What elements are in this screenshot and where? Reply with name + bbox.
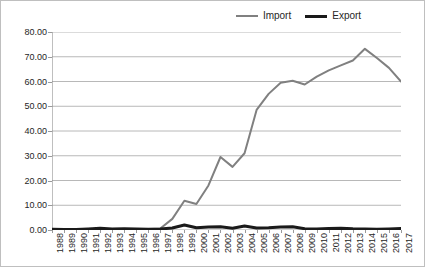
x-tick-label: 2010 <box>320 233 329 253</box>
x-tick-mark <box>317 230 318 233</box>
x-tick-label: 2005 <box>260 233 269 253</box>
x-tick-label: 2008 <box>296 233 305 253</box>
x-tick-label: 2003 <box>236 233 245 253</box>
x-tick-mark <box>389 230 390 233</box>
x-tick-mark <box>377 230 378 233</box>
x-tick-mark <box>245 230 246 233</box>
x-tick-mark <box>293 230 294 233</box>
y-axis: 0.0010.0020.0030.0040.0050.0060.0070.008… <box>1 1 47 267</box>
x-tick-mark <box>353 230 354 233</box>
x-tick-mark <box>196 230 197 233</box>
x-tick-label: 1998 <box>176 233 185 253</box>
x-tick-label: 1997 <box>164 233 173 253</box>
x-tick-mark <box>88 230 89 233</box>
chart-legend: Import Export <box>1 7 425 25</box>
x-tick-label: 1994 <box>128 233 137 253</box>
x-tick-label: 2015 <box>380 233 389 253</box>
x-tick-mark <box>184 230 185 233</box>
x-tick-mark <box>64 230 65 233</box>
x-tick-mark <box>257 230 258 233</box>
x-tick-mark <box>401 230 402 233</box>
x-tick-label: 2009 <box>308 233 317 253</box>
x-tick-mark <box>100 230 101 233</box>
series-line-export <box>52 225 401 229</box>
import-line-swatch <box>236 15 258 17</box>
x-tick-label: 1996 <box>152 233 161 253</box>
x-tick-mark <box>148 230 149 233</box>
series-line-import <box>52 49 401 230</box>
x-tick-label: 2011 <box>332 233 341 252</box>
x-tick-label: 1991 <box>92 233 101 253</box>
x-axis: 1988198919901991199219931994199519961997… <box>52 233 401 267</box>
x-tick-mark <box>341 230 342 233</box>
plot-area <box>52 32 401 230</box>
x-tick-label: 1995 <box>140 233 149 253</box>
x-tick-mark <box>52 230 53 233</box>
y-tick-label: 60.00 <box>1 77 47 86</box>
x-tick-mark <box>76 230 77 233</box>
y-tick-label: 80.00 <box>1 28 47 37</box>
x-tick-mark <box>305 230 306 233</box>
y-tick-label: 40.00 <box>1 127 47 136</box>
legend-entry-export: Export <box>305 11 361 21</box>
x-tick-label: 2013 <box>356 233 365 253</box>
series-lines <box>52 49 401 230</box>
x-tick-label: 2014 <box>368 233 377 253</box>
x-tick-label: 1990 <box>80 233 89 253</box>
y-tick-label: 20.00 <box>1 176 47 185</box>
y-tick-label: 70.00 <box>1 52 47 61</box>
x-tick-label: 1992 <box>104 233 113 253</box>
x-tick-label: 2017 <box>405 233 414 253</box>
plot-svg <box>52 32 401 230</box>
y-tick-label: 10.00 <box>1 201 47 210</box>
x-tick-label: 2006 <box>272 233 281 253</box>
x-tick-label: 2012 <box>344 233 353 253</box>
x-tick-mark <box>329 230 330 233</box>
x-tick-label: 2002 <box>224 233 233 253</box>
y-tick-label: 0.00 <box>1 226 47 235</box>
x-tick-label: 2001 <box>212 233 221 253</box>
x-tick-mark <box>281 230 282 233</box>
x-tick-label: 1988 <box>56 233 65 253</box>
x-tick-label: 2016 <box>392 233 401 253</box>
legend-label-export: Export <box>332 11 361 21</box>
y-tick-label: 50.00 <box>1 102 47 111</box>
x-tick-mark <box>269 230 270 233</box>
x-tick-label: 1989 <box>68 233 77 253</box>
x-tick-mark <box>124 230 125 233</box>
y-tick-label: 30.00 <box>1 151 47 160</box>
x-tick-mark <box>220 230 221 233</box>
x-tick-mark <box>112 230 113 233</box>
legend-label-import: Import <box>263 11 291 21</box>
x-tick-mark <box>160 230 161 233</box>
x-tick-mark <box>233 230 234 233</box>
x-tick-label: 1999 <box>188 233 197 253</box>
legend-entry-import: Import <box>236 11 291 21</box>
export-line-swatch <box>305 15 327 18</box>
x-tick-label: 2004 <box>248 233 257 253</box>
x-tick-mark <box>365 230 366 233</box>
x-tick-mark <box>208 230 209 233</box>
x-tick-mark <box>172 230 173 233</box>
x-tick-label: 2000 <box>200 233 209 253</box>
x-tick-label: 1993 <box>116 233 125 253</box>
x-tick-mark <box>136 230 137 233</box>
line-chart: Import Export 0.0010.0020.0030.0040.0050… <box>0 0 425 267</box>
x-tick-label: 2007 <box>284 233 293 253</box>
